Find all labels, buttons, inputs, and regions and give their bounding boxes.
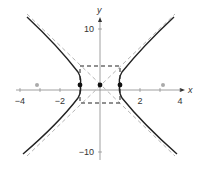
tick-label-y-neg10: −10 [79,147,94,157]
tick-label-x-neg2: −2 [55,96,65,106]
hyperbola-left-branch [23,17,81,154]
x-axis-label: x [187,85,193,95]
focus-right-point [161,83,165,87]
y-axis-arrow-icon [98,17,102,22]
tick-label-x-neg4: −4 [15,96,25,106]
hyperbola-right-branch [119,17,177,154]
vertex-left-point [78,83,83,88]
vertex-right-point [118,83,123,88]
tick-label-x-4: 4 [177,96,182,106]
tick-label-y-10: 10 [84,24,94,34]
x-axis-arrow-icon [180,88,185,92]
center-point [98,83,103,88]
y-axis-label: y [96,5,102,15]
focus-left-point [35,83,39,87]
hyperbola-plot: x y −4 −2 2 4 10 −10 [0,0,201,171]
tick-label-x-2: 2 [137,96,142,106]
